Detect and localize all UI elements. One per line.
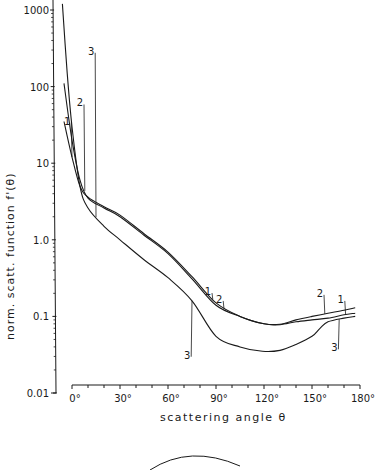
y-axis-line (53, 0, 56, 393)
curve-label-3: 3 (184, 350, 190, 361)
x-tick-label: 60° (162, 393, 180, 404)
curve-3 (62, 4, 355, 352)
decorative-arc (150, 456, 240, 470)
curve-label-1: 1 (64, 116, 70, 127)
curve-label-1: 1 (338, 294, 344, 305)
curves (62, 4, 355, 352)
curve-label-3: 3 (331, 342, 337, 353)
y-tick-label: 0.01 (27, 388, 49, 399)
curve-label-2: 2 (317, 288, 323, 299)
curve-label-2: 2 (216, 294, 222, 305)
chart-plot: 1000100101.00.10.010°30°60°90°120°150°18… (0, 0, 391, 470)
x-tick-label: 90° (210, 393, 228, 404)
curve-label-1: 1 (205, 286, 211, 297)
x-axis-label: scattering angle θ (160, 411, 287, 424)
x-tick-label: 150° (303, 393, 327, 404)
curve-label-3: 3 (88, 46, 94, 57)
y-tick-label: 10 (36, 158, 49, 169)
curve-label-2: 2 (77, 97, 83, 108)
x-tick-label: 120° (255, 393, 279, 404)
y-axis-label-wrap: norm. scatt. function f'(θ) (4, 200, 24, 220)
y-tick-label: 0.1 (33, 311, 49, 322)
y-tick-label: 100 (30, 82, 49, 93)
y-tick-label: 1000 (24, 5, 49, 16)
x-tick-label: 0° (69, 393, 80, 404)
x-tick-label: 30° (114, 393, 132, 404)
x-tick-label: 180° (351, 393, 375, 404)
curve-labels: 111222333 (64, 46, 346, 361)
y-tick-label: 1.0 (33, 235, 49, 246)
axes: 1000100101.00.10.010°30°60°90°120°150°18… (24, 0, 376, 404)
y-axis-label: norm. scatt. function f'(θ) (4, 172, 17, 340)
